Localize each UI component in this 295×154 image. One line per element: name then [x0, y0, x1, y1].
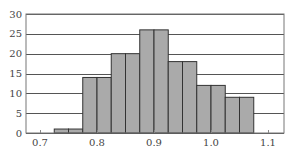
y-tick-label: 25	[9, 28, 22, 39]
histogram-bar	[111, 54, 125, 133]
y-tick-label: 0	[16, 128, 22, 139]
histogram-bar	[211, 85, 225, 133]
histogram-chart: 051015202530 0.70.80.91.01.1	[0, 0, 295, 154]
histogram-bar	[240, 97, 254, 133]
histogram-bar	[97, 77, 111, 133]
histogram-bar	[154, 30, 168, 133]
y-tick-label: 30	[9, 9, 22, 20]
y-axis-tick-labels: 051015202530	[9, 9, 22, 139]
histogram-bar	[183, 62, 197, 133]
y-tick-label: 20	[9, 48, 22, 59]
y-tick-label: 5	[16, 108, 22, 119]
histogram-bar	[140, 30, 154, 133]
x-tick-label: 0.7	[32, 137, 48, 148]
histogram-bar	[69, 129, 83, 133]
histogram-bar	[126, 54, 140, 133]
y-tick-label: 15	[9, 68, 22, 79]
y-tick-label: 10	[9, 88, 22, 99]
x-tick-label: 1.0	[203, 137, 219, 148]
x-tick-label: 0.9	[146, 137, 162, 148]
histogram-bar	[54, 129, 68, 133]
x-axis-tick-labels: 0.70.80.91.01.1	[32, 137, 276, 148]
histogram-bar	[83, 77, 97, 133]
x-tick-label: 1.1	[260, 137, 276, 148]
histogram-bar	[225, 97, 239, 133]
histogram-bar	[168, 62, 182, 133]
histogram-bar	[197, 85, 211, 133]
x-tick-label: 0.8	[89, 137, 105, 148]
